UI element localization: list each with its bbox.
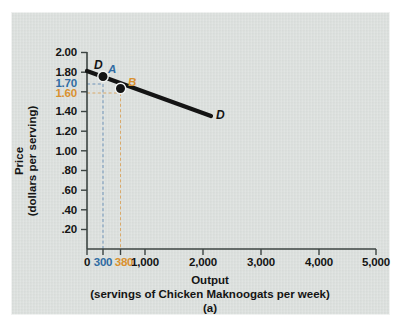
y-tick-label-2-00: 2.00 <box>30 46 77 58</box>
x-axis-title: Output (servings of Chicken Maknoogats p… <box>40 273 380 301</box>
y-tick-label-1-60-highlight: 1.60 <box>30 87 77 99</box>
y-tick-label-0-60: .60 <box>30 184 77 196</box>
panel-letter: (a) <box>40 302 380 314</box>
y-tick-label-1-40: 1.40 <box>30 105 77 117</box>
y-tick-label-0-80: .80 <box>30 164 77 176</box>
y-tick-marks <box>81 53 87 230</box>
curve-label-d-end: D <box>216 108 225 122</box>
y-tick-label-0-40: .40 <box>30 204 77 216</box>
x-axis-title-line1: Output <box>40 273 380 287</box>
y-tick-label-0-20: .20 <box>30 223 77 235</box>
x-tick-label-2000: 2,000 <box>182 256 224 268</box>
point-label-b: B <box>128 76 136 88</box>
point-label-a: A <box>108 63 116 75</box>
y-tick-label-1-00: 1.00 <box>30 145 77 157</box>
x-tick-label-3000: 3,000 <box>240 256 282 268</box>
x-axis-title-line2: (servings of Chicken Maknoogats per week… <box>40 287 380 301</box>
data-point-b <box>115 83 125 93</box>
x-tick-marks <box>87 249 376 255</box>
data-point-a <box>98 71 108 81</box>
curve-label-d-start: D <box>94 58 103 72</box>
y-tick-label-1-20: 1.20 <box>30 125 77 137</box>
x-tick-label-4000: 4,000 <box>298 256 340 268</box>
x-tick-label-1000: 1,000 <box>124 256 166 268</box>
demand-curve-figure: Price (dollars per serving) <box>0 0 401 325</box>
x-tick-label-5000: 5,000 <box>355 256 397 268</box>
